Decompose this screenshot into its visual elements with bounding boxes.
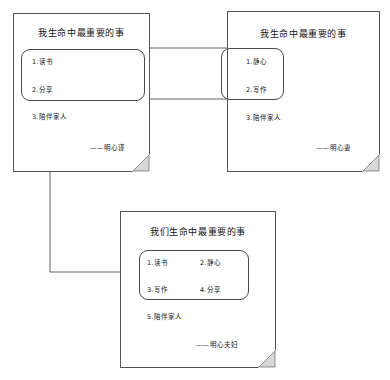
- note-bottom-item-5: 5.陪伴家人: [147, 311, 182, 321]
- note-card-left[interactable]: 我生命中最重要的事 1.读书 2.分享 3.陪伴家人 ——明心谨: [13, 13, 150, 172]
- note-right-item-1: 1.静心: [246, 56, 267, 66]
- note-bottom-item-3: 3.写作: [147, 284, 168, 294]
- note-bottom-title: 我们生命中最重要的事: [121, 225, 275, 238]
- note-right-signature: ——明心妻: [316, 142, 352, 152]
- note-left-title: 我生命中最重要的事: [14, 26, 149, 39]
- note-left-item-2: 2.分享: [32, 84, 53, 94]
- note-card-bottom[interactable]: 我们生命中最重要的事 1.读书 2.静心 3.写作 4.分享 5.陪伴家人 ——…: [120, 211, 276, 368]
- diagram-canvas: 我生命中最重要的事 1.读书 2.分享 3.陪伴家人 ——明心谨 我生命中最重要…: [0, 0, 390, 380]
- note-left-signature: ——明心谨: [90, 142, 126, 152]
- note-bottom-page-curl-icon: [258, 350, 276, 368]
- note-bottom-item-4: 4.分享: [200, 284, 221, 294]
- note-bottom-item-1: 1.读书: [147, 257, 168, 267]
- note-right-item-2: 2.写作: [246, 84, 267, 94]
- note-right-title: 我生命中最重要的事: [228, 27, 379, 40]
- note-left-item-1: 1.读书: [32, 56, 53, 66]
- note-left-page-curl-icon: [132, 154, 150, 172]
- note-bottom-signature: ——明心夫妇: [196, 339, 239, 349]
- note-card-right[interactable]: 我生命中最重要的事 1.静心 2.写作 3.陪伴家人 ——明心妻: [227, 11, 380, 172]
- note-bottom-item-2: 2.静心: [200, 257, 221, 267]
- note-right-page-curl-icon: [362, 154, 380, 172]
- note-right-item-3: 3.陪伴家人: [246, 112, 281, 122]
- note-left-item-3: 3.陪伴家人: [32, 111, 67, 121]
